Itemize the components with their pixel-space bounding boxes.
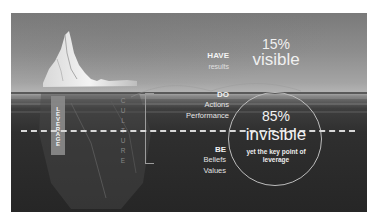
- be-item-beliefs: Beliefs: [169, 155, 226, 164]
- be-item-values: Values: [169, 166, 226, 175]
- do-heading: DO: [169, 90, 229, 99]
- have-heading: HAVE: [169, 51, 229, 60]
- invisible-percent: 85%: [233, 108, 319, 124]
- bracket-line: [145, 93, 154, 164]
- visible-label: visible: [233, 50, 319, 70]
- iceberg-slide: LEVERAGE CULTURE HAVE results 15% visibl…: [11, 13, 367, 212]
- have-subtitle: results: [169, 63, 229, 70]
- do-item-performance: Performance: [139, 111, 229, 120]
- invisible-label: invisible: [233, 125, 319, 145]
- leverage-note: yet the key point of leverage: [233, 148, 319, 164]
- culture-label: CULTURE: [118, 91, 128, 173]
- leverage-label: LEVERAGE: [51, 96, 65, 155]
- be-heading: BE: [169, 145, 226, 154]
- do-item-actions: Actions: [159, 100, 229, 109]
